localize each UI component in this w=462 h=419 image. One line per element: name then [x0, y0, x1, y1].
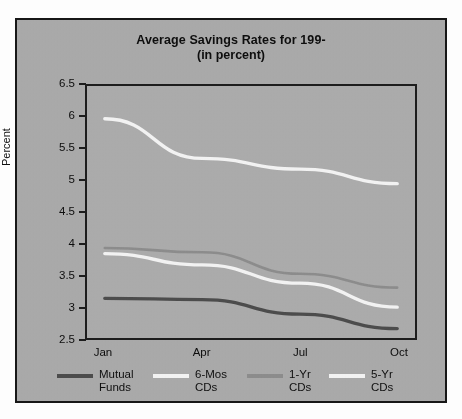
chart-title: Average Savings Rates for 199-: [17, 33, 445, 48]
series-line-6-mos-cds: [105, 119, 397, 184]
legend: Mutual Funds6-Mos CDs1-Yr CDs5-Yr CDs: [57, 368, 409, 398]
screenshot-root: Average Savings Rates for 199- (in perce…: [0, 0, 462, 419]
legend-label: 6-Mos CDs: [195, 368, 227, 393]
y-axis-tick-label: 5.5: [35, 141, 75, 153]
x-axis-tick-label: Oct: [369, 346, 429, 358]
x-axis-tick-label: Jan: [73, 346, 133, 358]
y-axis-tick-label: 6: [35, 109, 75, 121]
legend-item[interactable]: Mutual Funds: [57, 368, 134, 393]
legend-label: Mutual Funds: [99, 368, 134, 393]
x-axis-tick-label: Jul: [270, 346, 330, 358]
series-line-mutual-funds: [105, 298, 397, 328]
plot-area: [85, 84, 417, 340]
legend-swatch-icon: [329, 374, 365, 378]
legend-swatch-icon: [247, 374, 283, 378]
legend-swatch-icon: [153, 374, 189, 378]
y-axis-tick-label: 5: [35, 173, 75, 185]
legend-label: 5-Yr CDs: [371, 368, 393, 393]
legend-item[interactable]: 1-Yr CDs: [247, 368, 311, 393]
legend-swatch-icon: [57, 374, 93, 378]
y-axis-title: Percent: [0, 128, 12, 166]
series-line-1-yr-cds: [105, 248, 397, 288]
figure-panel: Average Savings Rates for 199- (in perce…: [15, 18, 447, 403]
legend-item[interactable]: 6-Mos CDs: [153, 368, 227, 393]
legend-label: 1-Yr CDs: [289, 368, 311, 393]
y-axis-tick-label: 2.5: [35, 333, 75, 345]
y-axis-tick-label: 6.5: [35, 77, 75, 89]
series-lines: [87, 86, 415, 338]
x-axis-tick-label: Apr: [172, 346, 232, 358]
y-axis-tick-label: 3: [35, 301, 75, 313]
chart-subtitle: (in percent): [17, 48, 445, 63]
y-axis-tick-label: 4.5: [35, 205, 75, 217]
y-axis-tick-label: 4: [35, 237, 75, 249]
y-axis-tick-label: 3.5: [35, 269, 75, 281]
legend-item[interactable]: 5-Yr CDs: [329, 368, 393, 393]
